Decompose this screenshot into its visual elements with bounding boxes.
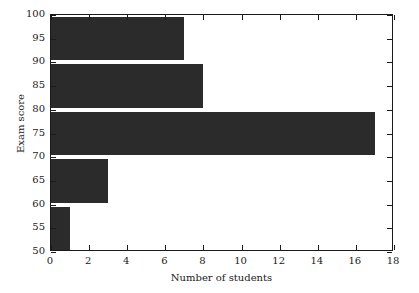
bar bbox=[51, 112, 375, 155]
x-tick-top bbox=[242, 15, 243, 20]
x-tick-top bbox=[89, 15, 90, 20]
y-tick-right bbox=[387, 205, 392, 206]
y-tick-label: 65 bbox=[11, 174, 45, 186]
y-tick-right bbox=[387, 252, 392, 253]
y-tick-right bbox=[387, 134, 392, 135]
y-tick-right bbox=[387, 15, 392, 16]
y-tick bbox=[51, 110, 56, 111]
x-tick bbox=[242, 245, 243, 250]
x-tick bbox=[89, 245, 90, 250]
x-tick-top bbox=[203, 15, 204, 20]
bar bbox=[51, 64, 203, 107]
x-tick bbox=[318, 245, 319, 250]
x-tick-label: 16 bbox=[340, 255, 370, 267]
x-tick-top bbox=[280, 15, 281, 20]
x-tick-top bbox=[127, 15, 128, 20]
x-tick bbox=[203, 245, 204, 250]
y-tick bbox=[51, 228, 56, 229]
y-tick bbox=[51, 86, 56, 87]
x-tick-top bbox=[356, 15, 357, 20]
bars-layer bbox=[51, 15, 392, 250]
x-tick-label: 12 bbox=[264, 255, 294, 267]
bar bbox=[51, 17, 184, 60]
y-tick-right bbox=[387, 39, 392, 40]
y-tick bbox=[51, 252, 56, 253]
y-tick-label: 90 bbox=[11, 55, 45, 67]
x-tick-label: 8 bbox=[187, 255, 217, 267]
x-tick bbox=[356, 245, 357, 250]
y-tick bbox=[51, 39, 56, 40]
y-tick-right bbox=[387, 110, 392, 111]
y-tick bbox=[51, 62, 56, 63]
y-tick-right bbox=[387, 86, 392, 87]
x-tick-label: 14 bbox=[302, 255, 332, 267]
x-tick bbox=[165, 245, 166, 250]
x-tick bbox=[127, 245, 128, 250]
x-tick-label: 10 bbox=[226, 255, 256, 267]
y-tick bbox=[51, 157, 56, 158]
x-tick bbox=[280, 245, 281, 250]
plot-area bbox=[50, 14, 393, 251]
chart-figure: 024681012141618 50556065707580859095100 … bbox=[0, 0, 419, 293]
y-axis-label: Exam score bbox=[15, 74, 26, 174]
x-tick-top bbox=[165, 15, 166, 20]
x-tick-label: 6 bbox=[149, 255, 179, 267]
y-tick-label: 95 bbox=[11, 32, 45, 44]
y-tick-label: 55 bbox=[11, 221, 45, 233]
y-tick-right bbox=[387, 228, 392, 229]
x-tick-top bbox=[318, 15, 319, 20]
x-tick-label: 18 bbox=[378, 255, 408, 267]
y-tick bbox=[51, 15, 56, 16]
y-tick-right bbox=[387, 62, 392, 63]
y-tick bbox=[51, 205, 56, 206]
x-tick bbox=[394, 245, 395, 250]
x-tick bbox=[51, 245, 52, 250]
y-tick bbox=[51, 181, 56, 182]
y-tick-label: 60 bbox=[11, 198, 45, 210]
y-tick-label: 50 bbox=[11, 245, 45, 257]
x-tick-label: 2 bbox=[73, 255, 103, 267]
bar bbox=[51, 159, 108, 202]
y-tick-label: 100 bbox=[11, 8, 45, 20]
x-tick-label: 4 bbox=[111, 255, 141, 267]
y-tick bbox=[51, 134, 56, 135]
y-tick-right bbox=[387, 181, 392, 182]
x-tick-top bbox=[394, 15, 395, 20]
y-tick-right bbox=[387, 157, 392, 158]
x-axis-label: Number of students bbox=[50, 272, 393, 283]
